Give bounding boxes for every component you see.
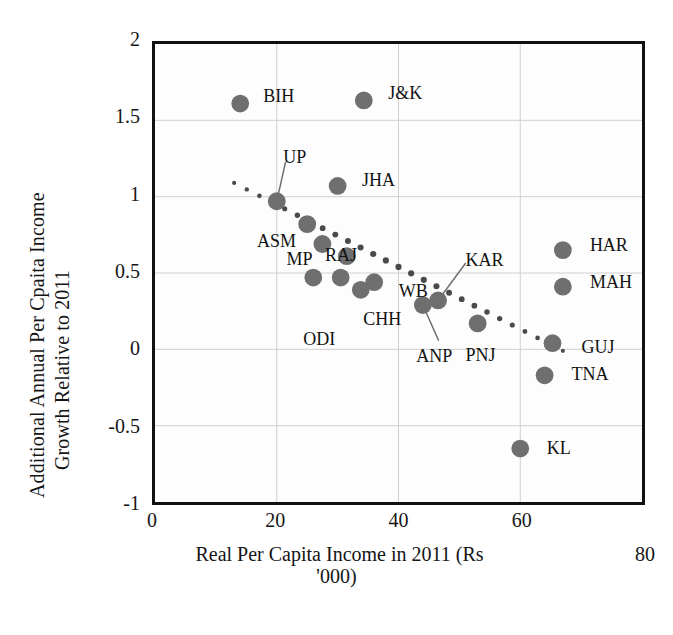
data-point-marker [355, 92, 373, 110]
point-label-j-k: J&K [388, 84, 422, 102]
point-label-raj: RAJ [325, 246, 357, 264]
scatter-chart-figure: Additional Annual Per Cpaita Income Grow… [0, 0, 673, 635]
point-label-up: UP [283, 148, 306, 166]
point-label-chh: CHH [363, 310, 401, 328]
data-point-marker [298, 215, 316, 233]
data-point-marker [429, 292, 447, 310]
point-label-odi: ODI [303, 330, 335, 348]
y-tick-label: -0.5 [88, 415, 140, 438]
point-label-har: HAR [590, 236, 628, 254]
gridlines [155, 44, 642, 502]
point-label-kar: KAR [466, 251, 504, 269]
plot-area: BIHJ&KUPJHAASMMPRAJODICHHWBANPKARPNJGUJT… [152, 41, 645, 505]
point-label-guj: GUJ [581, 338, 614, 356]
y-tick-label: 0.5 [88, 260, 140, 283]
point-label-anp: ANP [416, 347, 452, 365]
data-point-marker [329, 177, 347, 195]
y-tick-label: 2 [88, 28, 140, 51]
point-label-asm: ASM [257, 232, 296, 250]
data-point-marker [304, 269, 322, 287]
plot-canvas [155, 44, 642, 502]
data-point-marker [231, 95, 249, 113]
y-tick-label: 1.5 [88, 105, 140, 128]
x-tick-label: 60 [492, 509, 552, 532]
point-label-jha: JHA [362, 171, 395, 189]
x-axis-title-line-2: '000) [0, 565, 673, 587]
data-point-marker [554, 241, 572, 259]
x-axis-title: Real Per Capita Income in 2011 (Rs '000) [0, 543, 673, 588]
y-axis-title-line-1: Additional Annual Per Cpaita Income [26, 192, 49, 498]
point-label-wb: WB [399, 282, 428, 300]
point-label-mah: MAH [590, 273, 632, 291]
y-axis-title-line-2: Growth Relative to 2011 [51, 270, 74, 470]
data-point-marker [511, 440, 529, 458]
data-point-marker [469, 314, 487, 332]
data-point-marker [536, 366, 554, 384]
point-label-kl: KL [547, 439, 571, 457]
x-tick-label: 40 [369, 509, 429, 532]
data-point-marker [268, 192, 286, 210]
data-point-marker [365, 273, 383, 291]
x-axis-title-line-1: Real Per Capita Income in 2011 (Rs [0, 543, 673, 565]
point-label-bih: BIH [263, 87, 294, 105]
y-tick-label: 0 [88, 337, 140, 360]
point-label-mp: MP [286, 250, 312, 268]
point-label-pnj: PNJ [466, 346, 496, 364]
x-tick-label: 20 [245, 509, 305, 532]
data-point-marker [554, 278, 572, 296]
data-point-marker [332, 269, 350, 287]
x-tick-label: 0 [122, 509, 182, 532]
point-label-tna: TNA [571, 365, 608, 383]
data-point-marker [544, 334, 562, 352]
y-tick-label: 1 [88, 183, 140, 206]
